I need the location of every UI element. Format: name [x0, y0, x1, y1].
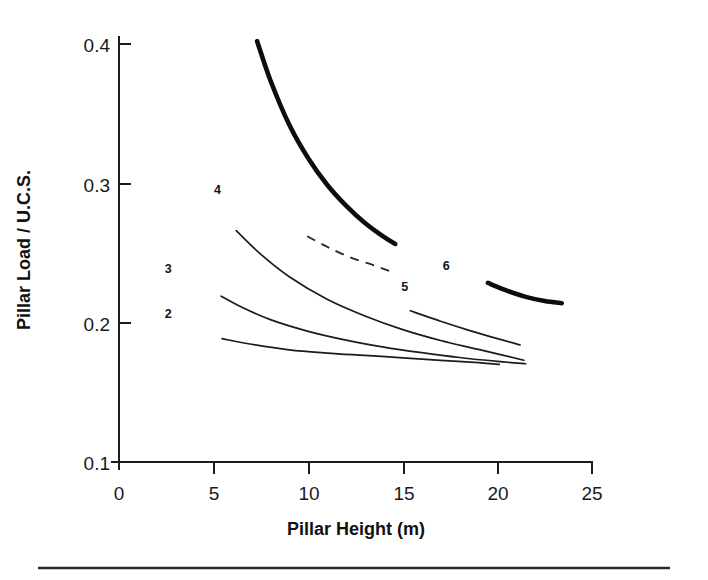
y-tick-label-0.2: 0.2 [84, 314, 110, 335]
x-tick-label-25: 25 [581, 483, 602, 504]
y-tick-label-0.4: 0.4 [84, 35, 111, 56]
series-label-5: 5 [401, 280, 408, 294]
series-label-3: 3 [165, 262, 172, 276]
x-tick-label-10: 10 [298, 483, 319, 504]
curve-4 [236, 231, 524, 361]
curve-6 [257, 41, 395, 244]
x-tick-label-5: 5 [209, 483, 220, 504]
pillar-load-plot: 0.4 0.3 0.2 0.1 0 5 10 15 20 25 Pillar H… [0, 0, 708, 580]
x-tick-label-20: 20 [487, 483, 508, 504]
series-label-group: 23456 [165, 183, 450, 320]
curve-5 [307, 236, 391, 272]
x-tick-label-15: 15 [393, 483, 414, 504]
curve-3 [221, 296, 526, 364]
curve-6b [488, 283, 562, 303]
curve-5b [410, 311, 520, 345]
y-tick-label-0.1: 0.1 [84, 453, 110, 474]
series-label-6: 6 [443, 259, 450, 273]
x-tick-label-0: 0 [114, 483, 125, 504]
series-label-4: 4 [214, 183, 221, 197]
y-tick-label-0.3: 0.3 [84, 175, 110, 196]
series-label-2: 2 [165, 307, 172, 321]
x-axis-title: Pillar Height (m) [287, 519, 425, 539]
y-axis-title: Pillar Load / U.C.S. [14, 170, 34, 330]
chart-figure: 0.4 0.3 0.2 0.1 0 5 10 15 20 25 Pillar H… [0, 0, 708, 580]
curve-group [221, 41, 562, 364]
